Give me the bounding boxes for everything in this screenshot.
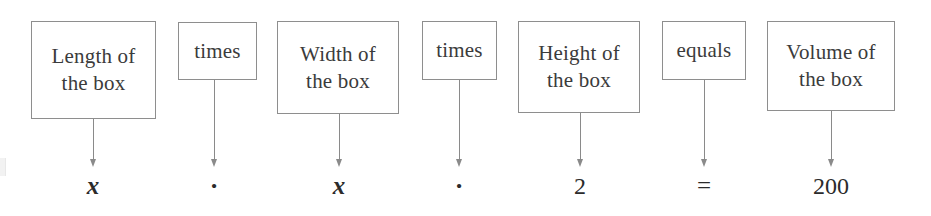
down-arrow-icon-volume: [826, 111, 837, 167]
arrow-head: [577, 159, 583, 167]
expression-term-height: 2: [520, 174, 640, 198]
down-arrow-icon-length: [88, 119, 99, 167]
expression-term-times-1: ·: [154, 174, 274, 198]
arrow-head: [456, 159, 462, 167]
verbal-model-box-times-2: times: [422, 21, 497, 80]
expression-term-equals: =: [644, 174, 764, 198]
expression-term-times-2: ·: [399, 174, 519, 198]
verbal-model-label-times-2: times: [431, 37, 488, 64]
page-scan-artifact: [0, 158, 6, 176]
expression-term-length: x: [33, 174, 153, 198]
arrow-head: [90, 159, 96, 167]
verbal-model-label-height: Height ofthe box: [533, 40, 625, 94]
down-arrow-icon-times-2: [454, 80, 465, 167]
arrow-head: [336, 159, 342, 167]
arrow-shaft: [459, 80, 460, 159]
verbal-model-label-equals: equals: [672, 37, 737, 64]
down-arrow-icon-equals: [699, 80, 710, 167]
verbal-model-box-width: Width ofthe box: [277, 21, 399, 114]
arrow-shaft: [339, 114, 340, 159]
verbal-model-box-height: Height ofthe box: [518, 21, 640, 113]
arrow-shaft: [580, 113, 581, 159]
verbal-model-label-width: Width ofthe box: [295, 41, 381, 95]
verbal-model-box-length: Length ofthe box: [31, 21, 156, 119]
verbal-model-label-times-1: times: [189, 38, 246, 65]
arrow-head: [701, 159, 707, 167]
down-arrow-icon-height: [575, 113, 586, 167]
arrow-shaft: [214, 80, 215, 159]
arrow-head: [211, 159, 217, 167]
verbal-model-box-times-1: times: [178, 22, 257, 80]
verbal-model-label-length: Length ofthe box: [46, 43, 140, 97]
verbal-model-equation-diagram: Length ofthe boxtimesWidth ofthe boxtime…: [0, 0, 931, 216]
arrow-shaft: [831, 111, 832, 159]
expression-term-width: x: [279, 174, 399, 198]
down-arrow-icon-width: [334, 114, 345, 167]
verbal-model-box-equals: equals: [662, 21, 746, 80]
arrow-shaft: [704, 80, 705, 159]
arrow-shaft: [93, 119, 94, 159]
arrow-head: [828, 159, 834, 167]
verbal-model-label-volume: Volume ofthe box: [781, 39, 881, 93]
down-arrow-icon-times-1: [209, 80, 220, 167]
verbal-model-box-volume: Volume ofthe box: [767, 21, 895, 111]
expression-term-volume: 200: [771, 174, 891, 198]
